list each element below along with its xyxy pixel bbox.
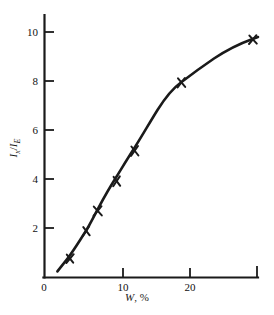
data-curve (57, 37, 258, 271)
chart-figure: 2 4 6 8 10 0 10 20 Ix/IE W, % (0, 0, 274, 315)
y-axis-label-denominator: I (7, 143, 19, 147)
y-axis-label: Ix/IE (8, 118, 22, 178)
data-point-marker (83, 226, 90, 236)
y-tick-label-8: 8 (8, 76, 38, 87)
data-point-markers (66, 35, 256, 263)
y-tick-label-10: 10 (8, 27, 38, 38)
y-axis-label-numerator: I (7, 154, 19, 158)
x-axis-label: W, % (0, 292, 274, 303)
chart-plot-area (0, 0, 274, 315)
y-axis-label-slash: / (7, 147, 19, 150)
y-tick-label-2: 2 (8, 223, 38, 234)
y-axis-label-denominator-subscript: E (13, 139, 22, 144)
x-axis-ticks (123, 266, 257, 277)
y-axis-label-numerator-subscript: x (13, 150, 22, 154)
x-axis-label-units: , % (134, 291, 149, 303)
x-axis-label-symbol: W (125, 291, 134, 303)
y-axis-ticks (45, 32, 54, 228)
